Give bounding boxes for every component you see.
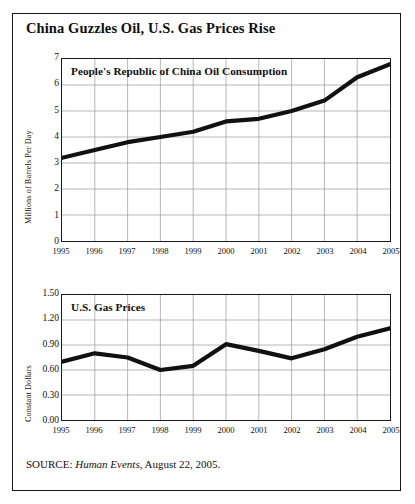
chart-china-oil-consumption: Millions of Barrels Per Day 01234567 Peo… (13, 46, 402, 271)
y-tick-label: 5 (15, 106, 59, 116)
chart-1-y-axis-label: Millions of Barrels Per Day (24, 130, 33, 224)
y-tick-label: 2 (15, 185, 59, 195)
x-tick-label: 1998 (151, 246, 168, 256)
x-tick-label: 2001 (250, 246, 267, 256)
x-tick-label: 1996 (85, 425, 102, 435)
y-tick-label: 3 (15, 158, 59, 168)
chart-1-gridlines (62, 59, 390, 241)
x-tick-label: 1995 (52, 425, 69, 435)
y-tick-label: 1.20 (15, 315, 59, 325)
x-tick-label: 2000 (217, 425, 234, 435)
x-tick-label: 2005 (382, 246, 399, 256)
chart-us-gas-prices: Constant Dollars 0.000.300.600.901.201.5… (13, 282, 402, 457)
y-tick-label: 4 (15, 132, 59, 142)
x-tick-label: 2003 (316, 425, 333, 435)
y-tick-label: 1 (15, 211, 59, 221)
chart-2-plot-svg (62, 295, 390, 420)
chart-1-plot-svg (62, 59, 390, 241)
y-tick-label: 0.90 (15, 340, 59, 350)
x-tick-label: 1995 (52, 246, 69, 256)
x-tick-label: 1998 (151, 425, 168, 435)
figure-frame: China Guzzles Oil, U.S. Gas Prices Rise … (12, 13, 401, 491)
x-tick-label: 1997 (118, 246, 135, 256)
x-tick-label: 2005 (382, 425, 399, 435)
x-tick-label: 2002 (283, 425, 300, 435)
y-tick-label: 0.30 (15, 391, 59, 401)
source-prefix: SOURCE: (26, 458, 72, 470)
y-tick-label: 1.50 (15, 289, 59, 299)
x-tick-label: 2000 (217, 246, 234, 256)
chart-1-plot-area (61, 58, 391, 242)
x-tick-label: 2002 (283, 246, 300, 256)
figure-title: China Guzzles Oil, U.S. Gas Prices Rise (26, 20, 275, 37)
chart-1-title: People's Republic of China Oil Consumpti… (71, 65, 287, 77)
x-tick-label: 1997 (118, 425, 135, 435)
y-tick-label: 6 (15, 80, 59, 90)
y-tick-label: 7 (15, 53, 59, 63)
x-tick-label: 2004 (349, 246, 366, 256)
y-tick-label: 0.60 (15, 365, 59, 375)
x-tick-label: 2001 (250, 425, 267, 435)
source-note: SOURCE: Human Events, August 22, 2005. (26, 458, 220, 470)
x-tick-label: 1999 (184, 425, 201, 435)
x-tick-label: 1999 (184, 246, 201, 256)
x-tick-label: 2004 (349, 425, 366, 435)
chart-2-title: U.S. Gas Prices (71, 301, 145, 313)
source-publication: Human Events (75, 458, 139, 470)
source-date: , August 22, 2005. (140, 458, 221, 470)
chart-2-plot-area (61, 294, 391, 421)
x-tick-label: 2003 (316, 246, 333, 256)
x-tick-label: 1996 (85, 246, 102, 256)
